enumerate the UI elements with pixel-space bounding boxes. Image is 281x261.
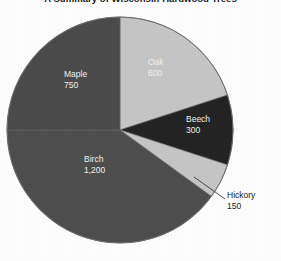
pie-chart-figure: A Summary of Wisconsin Hardwood Trees Oa… xyxy=(0,0,281,261)
pie-chart-svg xyxy=(0,0,281,261)
pie-slices-group xyxy=(7,17,233,243)
pie-slice-maple[interactable] xyxy=(7,17,120,130)
